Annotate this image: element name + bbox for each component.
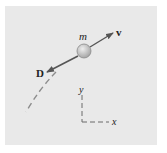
projectile-drag-diagram: m v D y x [0,0,167,153]
velocity-arrow [90,33,113,47]
mass-label: m [79,30,87,42]
velocity-label: v [116,26,122,38]
drag-force-arrow [47,56,78,72]
mass-ball [77,44,91,58]
x-axis-label: x [111,116,117,127]
drag-label: D [36,67,44,79]
y-axis-label: y [78,84,84,95]
